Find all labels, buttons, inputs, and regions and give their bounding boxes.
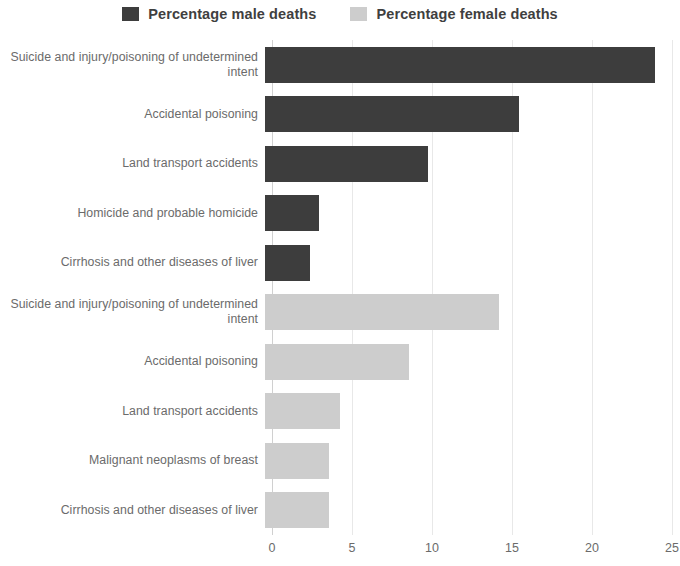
- x-axis-tick-label: 10: [425, 541, 439, 555]
- category-label: Homicide and probable homicide: [0, 206, 265, 221]
- bar-row: Cirrhosis and other diseases of liver: [0, 238, 680, 288]
- bar[interactable]: [265, 492, 329, 528]
- bar-track: [265, 387, 673, 437]
- bar-row: Malignant neoplasms of breast: [0, 436, 680, 486]
- x-axis-tick-label: 15: [505, 541, 519, 555]
- square-swatch-dark-icon: [122, 7, 139, 21]
- bar-row: Land transport accidents: [0, 139, 680, 189]
- x-axis-tick-label: 20: [585, 541, 599, 555]
- bar[interactable]: [265, 96, 519, 132]
- bar-track: [265, 486, 673, 536]
- bar-rows: Suicide and injury/poisoning of undeterm…: [0, 40, 680, 535]
- category-label: Cirrhosis and other diseases of liver: [0, 255, 265, 270]
- category-label: Malignant neoplasms of breast: [0, 453, 265, 468]
- bar-row: Land transport accidents: [0, 387, 680, 437]
- bar-track: [265, 189, 673, 239]
- category-label: Suicide and injury/poisoning of undeterm…: [0, 297, 265, 327]
- x-axis-tick-label: 5: [349, 541, 356, 555]
- bar-row: Accidental poisoning: [0, 337, 680, 387]
- category-label: Cirrhosis and other diseases of liver: [0, 503, 265, 518]
- bar[interactable]: [265, 146, 428, 182]
- bar-track: [265, 436, 673, 486]
- bar-row: Accidental poisoning: [0, 90, 680, 140]
- legend-label: Percentage female deaths: [376, 6, 557, 22]
- bar[interactable]: [265, 443, 329, 479]
- x-axis-tick-label: 0: [269, 541, 276, 555]
- bar-track: [265, 238, 673, 288]
- category-label: Land transport accidents: [0, 156, 265, 171]
- bar-track: [265, 288, 673, 338]
- bar[interactable]: [265, 393, 340, 429]
- bar-track: [265, 40, 673, 90]
- bar[interactable]: [265, 245, 310, 281]
- bar[interactable]: [265, 294, 499, 330]
- bar-row: Homicide and probable homicide: [0, 189, 680, 239]
- category-label: Suicide and injury/poisoning of undeterm…: [0, 50, 265, 80]
- bar-track: [265, 90, 673, 140]
- chart-legend: Percentage male deathsPercentage female …: [0, 6, 680, 22]
- category-label: Accidental poisoning: [0, 107, 265, 122]
- legend-entry[interactable]: Percentage male deaths: [122, 6, 316, 22]
- legend-entry[interactable]: Percentage female deaths: [350, 6, 557, 22]
- category-label: Accidental poisoning: [0, 354, 265, 369]
- bar-track: [265, 139, 673, 189]
- x-axis-tick-label: 25: [665, 541, 679, 555]
- bar[interactable]: [265, 344, 409, 380]
- bar-row: Suicide and injury/poisoning of undeterm…: [0, 288, 680, 338]
- bar-track: [265, 337, 673, 387]
- x-axis: 0510152025: [272, 535, 672, 565]
- bar[interactable]: [265, 195, 319, 231]
- bar[interactable]: [265, 47, 655, 83]
- square-swatch-light-icon: [350, 7, 367, 21]
- bar-row: Cirrhosis and other diseases of liver: [0, 486, 680, 536]
- legend-label: Percentage male deaths: [148, 6, 316, 22]
- category-label: Land transport accidents: [0, 404, 265, 419]
- bar-row: Suicide and injury/poisoning of undeterm…: [0, 40, 680, 90]
